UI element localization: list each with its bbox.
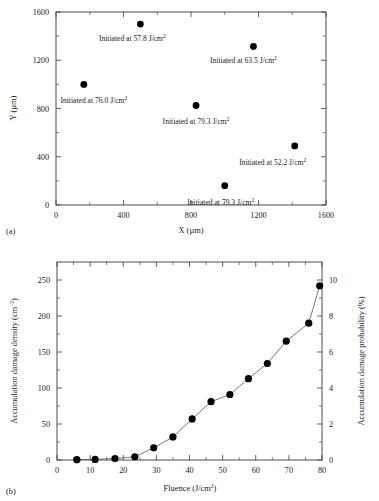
y-tick-label-left: 150 <box>38 348 50 357</box>
panel-b: 01020304050607080 050100150200250 024681… <box>0 248 379 501</box>
panel-a-data-point <box>250 43 257 50</box>
y-tick-label-right: 2 <box>329 420 333 429</box>
panel-a-point-annotation: Initiated at 52.2 J/cm2 <box>239 157 306 167</box>
panel-b-data-point <box>305 320 312 327</box>
panel-b-x-tick-labels: 01020304050607080 <box>55 466 326 475</box>
x-tick-label: 0 <box>55 466 59 475</box>
y-tick-label-left: 50 <box>42 420 50 429</box>
y-tick-label: 1200 <box>33 56 49 65</box>
panel-a-point-annotation: Initiated at 57.8 J/cm2 <box>99 33 166 43</box>
panel-a-x-tick-labels: 040080012001600 <box>54 211 334 220</box>
panel-b-data-point <box>91 456 98 463</box>
panel-b-data-point <box>169 433 176 440</box>
x-tick-label: 800 <box>185 211 197 220</box>
y-tick-label: 800 <box>37 105 49 114</box>
panel-a-point-annotation: Initiated at 63.5 J/cm2 <box>210 55 277 65</box>
panel-b-data-point <box>283 338 290 345</box>
panel-a-frame <box>56 12 326 205</box>
panel-a-data-point <box>80 81 87 88</box>
x-tick-label: 20 <box>119 466 127 475</box>
panel-a-data-point <box>193 102 200 109</box>
x-tick-label: 30 <box>152 466 160 475</box>
x-tick-label: 1600 <box>318 211 334 220</box>
y-tick-label-right: 10 <box>329 276 337 285</box>
panel-b-data-point <box>131 453 138 460</box>
x-tick-label: 0 <box>54 211 58 220</box>
panel-b-data-point <box>150 444 157 451</box>
y-tick-label-right: 8 <box>329 312 333 321</box>
panel-a-label: (a) <box>6 227 16 236</box>
panel-b-y-axis-title-left: Accumulation damage density (cm−2) <box>9 298 19 424</box>
panel-b-label: (b) <box>6 487 16 496</box>
panel-b-plot-area <box>57 262 322 460</box>
panel-a-x-axis-title: X (µm) <box>178 226 203 235</box>
panel-b-frame <box>57 262 322 460</box>
panel-a-x-axis-ticks <box>56 12 326 205</box>
x-tick-label: 400 <box>117 211 129 220</box>
y-tick-label-right: 4 <box>329 384 333 393</box>
x-tick-label: 70 <box>285 466 293 475</box>
panel-b-data-point <box>73 456 80 463</box>
panel-a-y-axis-title: Y (µm) <box>9 95 18 120</box>
panel-a-annotations: Initiated at 57.8 J/cm2Initiated at 63.5… <box>60 33 306 207</box>
panel-b-x-axis-title: Fluence (J/cm2) <box>164 483 217 493</box>
panel-a-point-annotation: Initiated at 76.0 J/cm2 <box>60 95 127 105</box>
panel-b-y-axis-ticks-left <box>57 280 62 460</box>
panel-b-y-axis-title-right: Accumulation damage probability (%) <box>357 296 366 425</box>
panel-a-y-axis-ticks <box>56 12 326 205</box>
panel-b-y-axis-ticks-right <box>317 280 322 460</box>
panel-a-plot-area <box>56 12 326 205</box>
panel-a-point-annotation: Initiated at 79.3 J/cm2 <box>187 197 254 207</box>
figure-container: 040080012001600 040080012001600 Initiate… <box>0 0 379 501</box>
x-tick-label: 50 <box>219 466 227 475</box>
y-tick-label: 1600 <box>33 8 49 17</box>
panel-b-y-tick-labels-right: 0246810 <box>329 276 337 465</box>
panel-b-data-point <box>316 282 323 289</box>
panel-b-data-point <box>264 360 271 367</box>
panel-b-y-tick-labels-left: 050100150200250 <box>38 276 50 465</box>
panel-b-data-point <box>245 375 252 382</box>
y-tick-label: 0 <box>45 201 49 210</box>
panel-b-x-axis-ticks <box>57 262 322 460</box>
panel-a-data-point <box>291 142 298 149</box>
panel-b-data-points <box>73 282 323 463</box>
y-tick-label-left: 250 <box>38 276 50 285</box>
panel-b-data-point <box>189 415 196 422</box>
y-tick-label-left: 0 <box>46 456 50 465</box>
x-tick-label: 80 <box>318 466 326 475</box>
y-tick-label: 400 <box>37 153 49 162</box>
x-tick-label: 40 <box>185 466 193 475</box>
panel-a-data-point <box>221 182 228 189</box>
y-tick-label-left: 100 <box>38 384 50 393</box>
panel-a-y-tick-labels: 040080012001600 <box>33 8 49 210</box>
panel-a-data-point <box>137 21 144 28</box>
panel-a-point-annotation: Initiated at 79.3 J/cm2 <box>163 116 230 126</box>
x-tick-label: 10 <box>86 466 94 475</box>
y-tick-label-right: 0 <box>329 456 333 465</box>
panel-b-data-point <box>226 391 233 398</box>
panel-a-svg: 040080012001600 040080012001600 Initiate… <box>0 0 379 240</box>
x-tick-label: 1200 <box>250 211 266 220</box>
panel-b-svg: 01020304050607080 050100150200250 024681… <box>0 248 379 501</box>
panel-b-data-point <box>111 455 118 462</box>
y-tick-label-left: 200 <box>38 312 50 321</box>
x-tick-label: 60 <box>252 466 260 475</box>
panel-b-data-curve <box>77 286 320 460</box>
y-tick-label-right: 6 <box>329 348 333 357</box>
panel-b-data-point <box>207 398 214 405</box>
panel-a: 040080012001600 040080012001600 Initiate… <box>0 0 379 240</box>
